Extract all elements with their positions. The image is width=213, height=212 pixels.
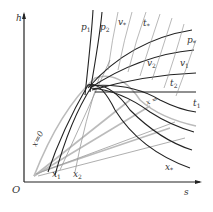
dark-curves	[48, 10, 196, 175]
label-x2: x2	[73, 170, 82, 180]
label-t2: t2	[170, 79, 177, 89]
y-arrow-icon	[22, 12, 26, 19]
x-arrow-icon	[195, 180, 202, 184]
label-t-star: t*	[143, 19, 150, 29]
label-v1: v1	[180, 59, 189, 69]
hs-diagram: h s O p1 p2 v* t* p* v2 v1 t2 t1 x = x=0…	[0, 0, 213, 212]
label-v-top: v*	[118, 18, 126, 28]
origin-label: O	[12, 185, 20, 195]
label-t1: t1	[193, 99, 200, 109]
label-p-star: p*	[187, 36, 196, 46]
label-x1: x1	[52, 170, 61, 180]
y-axis-label: h	[16, 14, 22, 23]
label-p2: p2	[100, 23, 110, 33]
label-x-star: x*	[165, 163, 173, 173]
saturation-curves	[34, 76, 196, 176]
x-axis-label: s	[184, 188, 189, 197]
label-p1: p1	[81, 23, 91, 33]
label-v2: v2	[147, 59, 156, 69]
